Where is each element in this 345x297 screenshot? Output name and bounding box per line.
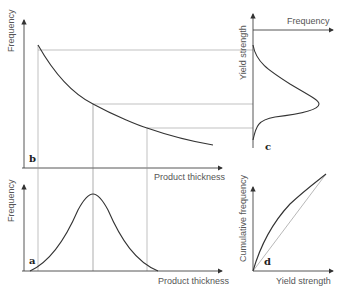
- c-y-label: Yield strength: [238, 25, 248, 80]
- d-y-label: Cumulative frequency: [238, 174, 248, 262]
- a-y-label: Frequency: [6, 179, 16, 222]
- panel-label-d: d: [264, 256, 271, 267]
- panel-label-c: c: [265, 141, 271, 152]
- a-x-label: Product thickness: [158, 276, 230, 286]
- a-bell-curve: [30, 194, 158, 271]
- b-curve: [38, 45, 213, 145]
- d-x-label: Yield strength: [276, 276, 331, 286]
- diagram: b Product thickness Frequency a Product …: [0, 0, 345, 297]
- panel-label-a: a: [29, 255, 36, 266]
- panel-b: b Product thickness Frequency: [6, 9, 253, 271]
- c-curve: [253, 45, 319, 140]
- panel-a: a Product thickness Frequency: [6, 179, 230, 286]
- c-x-label: Frequency: [287, 16, 330, 26]
- panel-d: d Yield strength Cumulative frequency: [238, 174, 333, 286]
- b-x-label: Product thickness: [154, 172, 226, 182]
- panel-label-b: b: [29, 153, 36, 164]
- b-y-label: Frequency: [6, 9, 16, 52]
- panel-c: c Frequency Yield strength: [238, 14, 333, 152]
